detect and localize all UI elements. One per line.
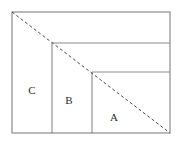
region-label-a: A xyxy=(110,111,118,123)
region-label-c: C xyxy=(28,84,35,96)
region-label-b: B xyxy=(65,94,72,106)
diagram-canvas: C B A xyxy=(0,0,185,147)
geometric-diagram: C B A xyxy=(0,0,185,147)
